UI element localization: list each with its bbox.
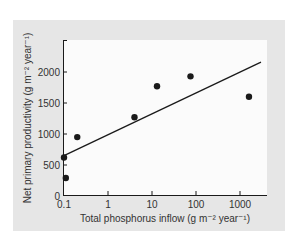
y-tick-label: 1500: [38, 98, 61, 109]
data-point: [246, 94, 252, 100]
x-tick-label: 100: [188, 199, 205, 210]
x-tick-label: 1000: [229, 199, 252, 210]
plot-area: [63, 40, 267, 196]
data-point: [74, 134, 80, 140]
y-tick-label: 2000: [38, 67, 61, 78]
y-axis-title: Net primary productivity (g m⁻² year⁻¹): [22, 33, 33, 204]
x-axis-title: Total phosphorus inflow (g m⁻² year⁻¹): [80, 213, 250, 224]
data-point: [187, 73, 193, 79]
y-tick-label: 0: [54, 191, 60, 202]
x-tick-label: 1: [105, 199, 111, 210]
scatter-chart: 0.111010010000500100015002000 Net primar…: [0, 0, 295, 235]
y-tick-label: 1000: [38, 129, 61, 140]
data-point: [61, 154, 67, 160]
y-tick-label: 500: [43, 160, 60, 171]
x-tick-label: 10: [146, 199, 158, 210]
data-point: [154, 83, 160, 89]
data-point: [63, 175, 69, 181]
data-point: [131, 114, 137, 120]
